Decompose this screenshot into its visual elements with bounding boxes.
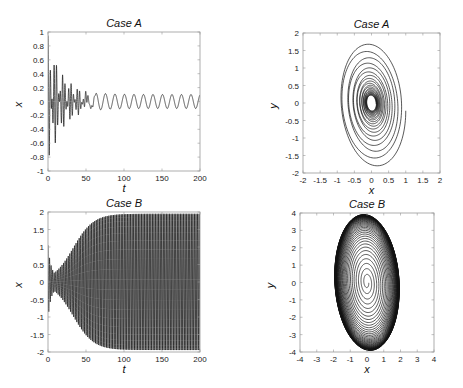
- data-curve: [341, 44, 406, 166]
- y-tick-label: 0.5: [288, 82, 300, 91]
- y-tick-label: -1: [37, 167, 45, 176]
- y-tick-label: -1: [37, 313, 45, 322]
- x-tick-label: 0: [46, 174, 51, 183]
- x-tick-label: -1: [334, 176, 342, 185]
- chart-case-a-phase-portrait: -2-1.5-1-0.500.511.52-2-1.5-1-0.500.511.…: [267, 18, 443, 196]
- y-tick-label: 2: [292, 244, 297, 253]
- x-tick-label: 150: [155, 355, 169, 364]
- y-tick-label: 2: [295, 29, 300, 38]
- chart-case-a-time-series: 050100150200-1-0.8-0.6-0.4-0.200.20.40.6…: [12, 17, 207, 194]
- x-tick-label: -3: [313, 355, 321, 364]
- y-tick-label: 1: [40, 28, 45, 37]
- plot-frame: [300, 213, 434, 352]
- y-tick-label: -0.8: [30, 153, 44, 162]
- x-tick-label: -2: [330, 355, 338, 364]
- y-tick-label: -1: [289, 296, 297, 305]
- data-curve: [48, 214, 200, 350]
- y-tick-label: -2: [37, 348, 45, 357]
- x-tick-label: 200: [193, 355, 207, 364]
- y-tick-label: 4: [292, 209, 297, 218]
- y-tick-label: -0.4: [30, 125, 44, 134]
- y-tick-label: 0.6: [33, 56, 45, 65]
- chart-title: Case B: [349, 198, 385, 210]
- y-tick-label: 1.5: [33, 226, 45, 235]
- y-tick-label: -1: [292, 134, 300, 143]
- chart-case-b-time-series: 050100150200-2-1.5-1-0.500.511.52Case Bt…: [12, 197, 207, 375]
- y-tick-label: -2: [292, 169, 300, 178]
- y-tick-label: -4: [289, 348, 297, 357]
- x-tick-label: 2: [438, 176, 443, 185]
- chart-title: Case B: [106, 197, 142, 209]
- y-axis-label: x: [12, 101, 24, 108]
- y-axis-label: x: [12, 282, 24, 289]
- x-tick-label: 150: [155, 174, 169, 183]
- x-tick-label: 2: [398, 355, 403, 364]
- x-tick-label: -0.5: [347, 176, 361, 185]
- chart-title: Case A: [106, 17, 142, 29]
- x-tick-label: 200: [193, 174, 207, 183]
- y-tick-label: -1.5: [285, 152, 299, 161]
- y-tick-label: 1: [292, 261, 297, 270]
- x-tick-label: -4: [296, 355, 304, 364]
- y-tick-label: 0: [40, 98, 45, 107]
- y-axis-label: y: [267, 102, 279, 110]
- y-tick-label: 0.8: [33, 42, 45, 51]
- y-tick-label: 0.5: [33, 261, 45, 270]
- x-tick-label: 1: [382, 355, 387, 364]
- data-curve: [48, 35, 200, 155]
- x-tick-label: -1.5: [313, 176, 327, 185]
- chart-title: Case A: [354, 18, 390, 30]
- x-tick-label: 50: [82, 355, 91, 364]
- x-axis-label: x: [363, 363, 370, 375]
- x-tick-label: 0.5: [383, 176, 395, 185]
- y-tick-label: -1.5: [30, 331, 44, 340]
- y-tick-label: 0.2: [33, 84, 45, 93]
- x-axis-label: t: [122, 363, 126, 375]
- x-tick-label: -2: [299, 176, 307, 185]
- y-tick-label: 1: [40, 243, 45, 252]
- y-tick-label: 0: [292, 279, 297, 288]
- x-tick-label: 1.5: [417, 176, 429, 185]
- x-tick-label: 3: [415, 355, 420, 364]
- y-tick-label: 3: [292, 226, 297, 235]
- y-tick-label: -0.5: [285, 117, 299, 126]
- plot-frame: [303, 33, 440, 173]
- y-tick-label: 1: [295, 64, 300, 73]
- x-tick-label: 1: [404, 176, 409, 185]
- y-tick-label: -0.5: [30, 296, 44, 305]
- data-curve: [335, 215, 400, 351]
- y-tick-label: 0.4: [33, 70, 45, 79]
- y-axis-label: y: [264, 281, 276, 289]
- x-axis-label: x: [368, 184, 375, 196]
- x-tick-label: 0: [46, 355, 51, 364]
- x-axis-label: t: [122, 182, 126, 194]
- figure: 050100150200-1-0.8-0.6-0.4-0.200.20.40.6…: [0, 0, 463, 388]
- y-tick-label: -0.2: [30, 111, 44, 120]
- y-tick-label: 1.5: [288, 47, 300, 56]
- x-tick-label: 50: [82, 174, 91, 183]
- chart-case-b-phase-portrait: -4-3-2-101234-4-3-2-101234Case Bxy: [264, 198, 437, 375]
- y-tick-label: 2: [40, 208, 45, 217]
- y-tick-label: -2: [289, 313, 297, 322]
- y-tick-label: 0: [295, 99, 300, 108]
- x-tick-label: 4: [432, 355, 437, 364]
- y-tick-label: 0: [40, 278, 45, 287]
- x-tick-label: -1: [347, 355, 355, 364]
- y-tick-label: -0.6: [30, 139, 44, 148]
- y-tick-label: -3: [289, 331, 297, 340]
